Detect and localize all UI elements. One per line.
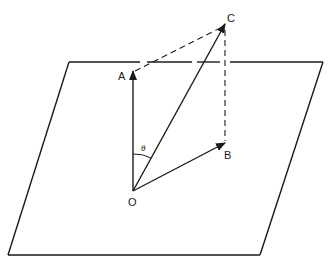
label-c: C bbox=[227, 12, 235, 24]
label-b: B bbox=[224, 149, 231, 161]
label-a: A bbox=[118, 70, 126, 82]
label-o: O bbox=[128, 196, 137, 208]
plane bbox=[8, 62, 323, 255]
angle-theta-label: θ bbox=[141, 143, 146, 153]
angle-arc bbox=[133, 154, 151, 158]
dashed-projection-lines bbox=[135, 27, 225, 141]
vectors bbox=[133, 24, 225, 191]
vector-oc bbox=[133, 24, 225, 191]
dashed-line-a-c bbox=[135, 27, 222, 71]
vector-diagram: A B C O θ bbox=[0, 0, 329, 270]
